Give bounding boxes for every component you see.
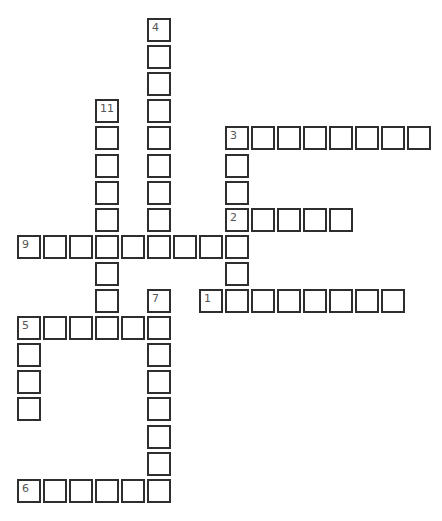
crossword-cell[interactable] — [147, 99, 171, 123]
crossword-cell[interactable] — [225, 154, 249, 178]
crossword-cell[interactable] — [329, 289, 353, 313]
crossword-cell[interactable]: 6 — [17, 479, 41, 503]
crossword-cell[interactable]: 2 — [225, 208, 249, 232]
crossword-cell[interactable] — [95, 316, 119, 340]
crossword-cell[interactable] — [173, 235, 197, 259]
crossword-cell[interactable] — [277, 289, 301, 313]
crossword-cell[interactable] — [69, 235, 93, 259]
crossword-cell[interactable] — [95, 126, 119, 150]
clue-number: 7 — [152, 293, 159, 304]
crossword-cell[interactable] — [381, 126, 405, 150]
crossword-cell[interactable] — [355, 289, 379, 313]
clue-number: 1 — [204, 293, 211, 304]
crossword-cell[interactable] — [95, 262, 119, 286]
crossword-cell[interactable] — [147, 425, 171, 449]
crossword-cell[interactable] — [147, 181, 171, 205]
crossword-cell[interactable] — [147, 126, 171, 150]
clue-number: 9 — [22, 239, 29, 250]
crossword-cell[interactable] — [17, 343, 41, 367]
crossword-cell[interactable] — [147, 45, 171, 69]
clue-number: 4 — [152, 22, 159, 33]
crossword-cell[interactable] — [147, 343, 171, 367]
crossword-cell[interactable] — [95, 208, 119, 232]
crossword-cell[interactable] — [251, 289, 275, 313]
crossword-cell[interactable] — [329, 126, 353, 150]
crossword-cell[interactable] — [303, 126, 327, 150]
crossword-cell[interactable]: 3 — [225, 126, 249, 150]
crossword-cell[interactable] — [225, 289, 249, 313]
crossword-cell[interactable] — [147, 208, 171, 232]
clue-number: 2 — [230, 212, 237, 223]
crossword-cell[interactable] — [147, 154, 171, 178]
crossword-cell[interactable]: 1 — [199, 289, 223, 313]
crossword-cell[interactable] — [277, 126, 301, 150]
crossword-cell[interactable] — [147, 72, 171, 96]
crossword-cell[interactable] — [121, 235, 145, 259]
crossword-cell[interactable] — [43, 235, 67, 259]
crossword-cell[interactable] — [303, 208, 327, 232]
clue-number: 3 — [230, 130, 237, 141]
crossword-grid: 4113291756 — [0, 0, 442, 521]
clue-number: 11 — [100, 103, 114, 114]
crossword-cell[interactable] — [147, 316, 171, 340]
crossword-cell[interactable] — [329, 208, 353, 232]
crossword-cell[interactable] — [277, 208, 301, 232]
crossword-cell[interactable] — [381, 289, 405, 313]
crossword-cell[interactable] — [121, 479, 145, 503]
crossword-cell[interactable] — [43, 316, 67, 340]
crossword-cell[interactable] — [69, 479, 93, 503]
crossword-cell[interactable]: 9 — [17, 235, 41, 259]
crossword-cell[interactable] — [147, 235, 171, 259]
crossword-cell[interactable] — [147, 452, 171, 476]
crossword-cell[interactable] — [147, 370, 171, 394]
crossword-cell[interactable] — [303, 289, 327, 313]
crossword-cell[interactable] — [225, 235, 249, 259]
crossword-cell[interactable] — [121, 316, 145, 340]
crossword-cell[interactable]: 5 — [17, 316, 41, 340]
crossword-cell[interactable] — [95, 479, 119, 503]
crossword-cell[interactable] — [251, 126, 275, 150]
crossword-cell[interactable] — [147, 397, 171, 421]
crossword-cell[interactable] — [43, 479, 67, 503]
crossword-cell[interactable] — [69, 316, 93, 340]
crossword-cell[interactable] — [225, 181, 249, 205]
clue-number: 5 — [22, 320, 29, 331]
crossword-cell[interactable] — [95, 289, 119, 313]
crossword-cell[interactable] — [225, 262, 249, 286]
crossword-cell[interactable]: 11 — [95, 99, 119, 123]
crossword-cell[interactable] — [95, 181, 119, 205]
clue-number: 6 — [22, 483, 29, 494]
crossword-cell[interactable] — [17, 370, 41, 394]
crossword-cell[interactable] — [95, 154, 119, 178]
crossword-cell[interactable]: 4 — [147, 18, 171, 42]
crossword-cell[interactable] — [355, 126, 379, 150]
crossword-cell[interactable] — [95, 235, 119, 259]
crossword-cell[interactable] — [17, 397, 41, 421]
crossword-cell[interactable] — [199, 235, 223, 259]
crossword-cell[interactable] — [147, 479, 171, 503]
crossword-cell[interactable] — [251, 208, 275, 232]
crossword-cell[interactable]: 7 — [147, 289, 171, 313]
crossword-cell[interactable] — [407, 126, 431, 150]
